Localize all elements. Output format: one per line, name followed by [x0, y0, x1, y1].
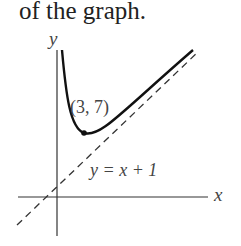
point-label: (3, 7)	[70, 97, 109, 118]
minimum-point	[81, 130, 87, 136]
y-axis-label: y	[49, 28, 57, 50]
curve	[62, 50, 193, 134]
graph	[0, 0, 241, 246]
x-axis-label: x	[214, 184, 222, 206]
asymptote-label: y = x + 1	[90, 160, 157, 181]
asymptote-line	[17, 51, 199, 225]
